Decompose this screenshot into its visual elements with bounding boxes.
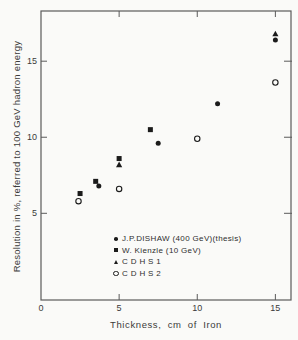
y-axis-title: Resolution in %, referred to 100 GeV had… — [11, 11, 22, 302]
x-axis-title: Thickness, cm of Iron — [41, 319, 291, 330]
data-point-open-circle — [195, 136, 200, 141]
legend-marker-cell — [110, 271, 122, 276]
filled-square-icon — [114, 248, 118, 252]
legend-item: W. Kienzle (10 GeV) — [110, 245, 242, 257]
data-point-filled-circle — [273, 37, 278, 42]
data-point-filled-triangle — [116, 162, 122, 168]
x-tick-label: 0 — [31, 303, 52, 313]
data-point-open-circle — [76, 198, 81, 203]
data-point-filled-circle — [156, 141, 161, 146]
data-point-filled-triangle — [272, 31, 278, 37]
legend-item: C D H S 2 — [110, 268, 242, 280]
legend: J.P.DISHAW (400 GeV)(thesis)W. Kienzle (… — [110, 233, 242, 279]
filled-circle-icon — [114, 237, 118, 241]
data-point-filled-square — [78, 191, 83, 196]
data-point-open-circle — [116, 186, 121, 191]
scanned-chart-figure: Resolution in %, referred to 100 GeV had… — [0, 0, 298, 340]
legend-marker-cell — [110, 260, 122, 264]
open-circle-icon — [113, 271, 118, 276]
data-point-open-circle — [273, 80, 278, 85]
data-point-filled-square — [148, 127, 153, 132]
filled-triangle-icon — [114, 260, 118, 264]
scatter-plot — [0, 0, 298, 340]
legend-label: W. Kienzle (10 GeV) — [122, 246, 201, 255]
x-tick-label: 10 — [187, 303, 208, 313]
data-point-filled-square — [93, 179, 98, 184]
data-point-filled-square — [117, 156, 122, 161]
data-point-filled-circle — [215, 101, 220, 106]
legend-item: C D H S 1 — [110, 256, 242, 268]
data-point-filled-circle — [96, 183, 101, 188]
legend-marker-cell — [110, 237, 122, 241]
legend-label: C D H S 2 — [122, 269, 161, 278]
x-tick-label: 5 — [109, 303, 130, 313]
legend-label: J.P.DISHAW (400 GeV)(thesis) — [122, 234, 242, 243]
y-tick-label: 10 — [19, 132, 37, 142]
legend-marker-cell — [110, 248, 122, 252]
y-tick-label: 15 — [19, 56, 37, 66]
y-tick-label: 5 — [19, 208, 37, 218]
x-tick-label: 15 — [265, 303, 286, 313]
legend-label: C D H S 1 — [122, 257, 161, 266]
legend-item: J.P.DISHAW (400 GeV)(thesis) — [110, 233, 242, 245]
